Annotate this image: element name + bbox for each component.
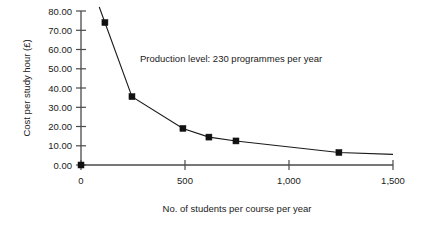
- x-tick-label-0: 0: [78, 175, 83, 186]
- series-markers: [78, 20, 342, 168]
- y-tick-label-80: 80.00: [48, 6, 72, 17]
- line-chart: 80.00 70.00 60.00 50.00 40.00 30.00 20.0…: [0, 0, 423, 230]
- y-tick-label-0: 0.00: [54, 160, 73, 171]
- y-axis-tick-labels: 80.00 70.00 60.00 50.00 40.00 30.00 20.0…: [48, 6, 72, 171]
- data-point-marker: [129, 94, 135, 100]
- y-tick-label-30: 30.00: [48, 102, 72, 113]
- data-point-marker: [102, 20, 108, 26]
- y-tick-label-70: 70.00: [48, 25, 72, 36]
- y-tick-label-40: 40.00: [48, 83, 72, 94]
- data-point-marker: [233, 138, 239, 144]
- series-line-cost-per-study-hour: [99, 7, 393, 154]
- data-point-marker: [78, 162, 84, 168]
- y-tick-label-50: 50.00: [48, 63, 72, 74]
- x-axis-title: No. of students per course per year: [163, 203, 312, 214]
- y-tick-label-20: 20.00: [48, 121, 72, 132]
- y-tick-label-60: 60.00: [48, 44, 72, 55]
- x-tick-label-500: 500: [177, 175, 193, 186]
- chart-container: 80.00 70.00 60.00 50.00 40.00 30.00 20.0…: [0, 0, 423, 230]
- x-axis-tick-labels: 0 500 1,000 1,500: [78, 175, 405, 186]
- x-tick-label-1000: 1,000: [277, 175, 301, 186]
- annotation-production-level: Production level: 230 programmes per yea…: [140, 53, 322, 64]
- data-point-marker: [336, 149, 342, 155]
- x-tick-label-1500: 1,500: [381, 175, 405, 186]
- data-point-marker: [206, 134, 212, 140]
- data-point-marker: [180, 125, 186, 131]
- y-tick-label-10: 10.00: [48, 140, 72, 151]
- y-axis-title: Cost per study hour (£): [21, 39, 32, 136]
